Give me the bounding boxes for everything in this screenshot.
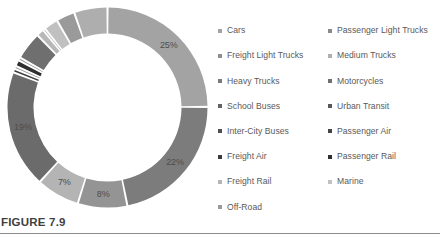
legend-item[interactable]: Passenger Rail (328, 144, 440, 169)
legend-item-label: Heavy Trucks (227, 77, 280, 86)
legend-item-label: Urban Transit (337, 102, 389, 111)
legend-swatch-icon (218, 129, 222, 133)
legend-item[interactable]: Passenger Air (328, 119, 440, 144)
legend-item[interactable]: Heavy Trucks (218, 68, 328, 93)
legend-item-label: Passenger Light Trucks (337, 26, 428, 35)
figure-caption-block: FIGURE 7.9 (0, 216, 440, 234)
legend-item[interactable]: Freight Rail (218, 169, 328, 194)
legend-item[interactable]: Marine (328, 169, 440, 194)
legend-swatch-icon (328, 104, 332, 108)
legend-item-label: Inter-City Buses (227, 127, 289, 136)
legend-item-label: Freight Air (227, 152, 267, 161)
legend-column-left: CarsFreight Light TrucksHeavy TrucksScho… (218, 18, 328, 220)
legend-swatch-icon (218, 104, 222, 108)
legend-swatch-icon (328, 29, 332, 33)
legend-item-label: Medium Trucks (337, 51, 396, 60)
legend-swatch-icon (328, 129, 332, 133)
legend-item[interactable]: School Buses (218, 94, 328, 119)
legend-column-right: Passenger Light TrucksMedium TrucksMotor… (328, 18, 440, 194)
donut-slice-label: 22% (166, 157, 184, 167)
donut-slice-group (7, 8, 207, 208)
legend-item-label: Passenger Air (337, 127, 391, 136)
legend-item-label: School Buses (227, 102, 280, 111)
donut-slice[interactable] (108, 8, 207, 107)
legend-item[interactable]: Freight Light Trucks (218, 43, 328, 68)
chart-legend: CarsFreight Light TrucksHeavy TrucksScho… (218, 18, 440, 210)
legend-swatch-icon (218, 29, 222, 33)
legend-swatch-icon (218, 155, 222, 159)
legend-item-label: Freight Rail (227, 177, 272, 186)
legend-swatch-icon (218, 54, 222, 58)
legend-item-label: Freight Light Trucks (227, 51, 303, 60)
legend-item-label: Passenger Rail (337, 152, 396, 161)
legend-swatch-icon (328, 54, 332, 58)
legend-item-label: Cars (227, 26, 245, 35)
figure-container: 25%22%8%7%19% CarsFreight Light TrucksHe… (0, 0, 440, 246)
legend-item[interactable]: Freight Air (218, 144, 328, 169)
legend-swatch-icon (328, 155, 332, 159)
legend-item-label: Motorcycles (337, 77, 383, 86)
caption-divider (0, 233, 440, 234)
legend-item[interactable]: Medium Trucks (328, 43, 440, 68)
legend-item[interactable]: Cars (218, 18, 328, 43)
legend-swatch-icon (218, 180, 222, 184)
legend-item[interactable]: Motorcycles (328, 68, 440, 93)
donut-slice-label: 19% (14, 122, 32, 132)
legend-swatch-icon (218, 79, 222, 83)
donut-chart: 25%22%8%7%19% (0, 0, 215, 215)
legend-swatch-icon (328, 79, 332, 83)
legend-item-label: Off-Road (227, 203, 262, 212)
legend-item[interactable]: Urban Transit (328, 94, 440, 119)
donut-chart-svg: 25%22%8%7%19% (0, 0, 215, 215)
donut-slice-label: 8% (97, 189, 110, 199)
legend-item[interactable]: Passenger Light Trucks (328, 18, 440, 43)
legend-swatch-icon (218, 205, 222, 209)
donut-slice-label: 7% (58, 177, 71, 187)
legend-item[interactable]: Inter-City Buses (218, 119, 328, 144)
donut-slice-label: 25% (160, 40, 178, 50)
figure-caption-title: FIGURE 7.9 (0, 216, 440, 228)
legend-item-label: Marine (337, 177, 364, 186)
legend-swatch-icon (328, 180, 332, 184)
